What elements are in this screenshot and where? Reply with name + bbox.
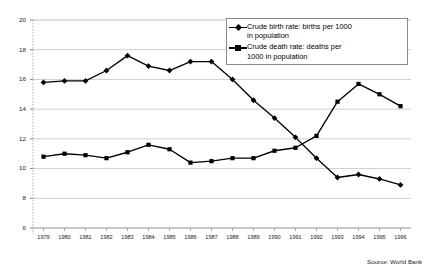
y-axis-tick-label: 16 bbox=[8, 76, 26, 82]
square-marker-icon bbox=[229, 43, 247, 52]
x-axis-tick-label: 1996 bbox=[388, 234, 414, 240]
y-axis-tick-label: 10 bbox=[8, 165, 26, 171]
source-attribution: Source: World Bank bbox=[367, 258, 422, 265]
chart-legend: Crude birth rate: births per 1000 in pop… bbox=[226, 18, 408, 65]
legend-label-birth-rate: Crude birth rate: births per 1000 in pop… bbox=[247, 22, 352, 40]
y-axis-tick-label: 18 bbox=[8, 47, 26, 53]
chart-container: 68101214161820 1979198019811982198319841… bbox=[0, 0, 430, 271]
y-axis-tick-label: 8 bbox=[8, 195, 26, 201]
y-axis-tick-label: 14 bbox=[8, 106, 26, 112]
y-axis-tick-label: 20 bbox=[8, 17, 26, 23]
legend-item-death-rate: Crude death rate: deaths per 1000 in pop… bbox=[229, 42, 404, 60]
diamond-marker-icon bbox=[229, 23, 247, 32]
legend-item-birth-rate: Crude birth rate: births per 1000 in pop… bbox=[229, 22, 404, 40]
y-axis-tick-label: 12 bbox=[8, 136, 26, 142]
y-axis-tick-label: 6 bbox=[8, 225, 26, 231]
legend-label-death-rate: Crude death rate: deaths per 1000 in pop… bbox=[247, 42, 342, 60]
